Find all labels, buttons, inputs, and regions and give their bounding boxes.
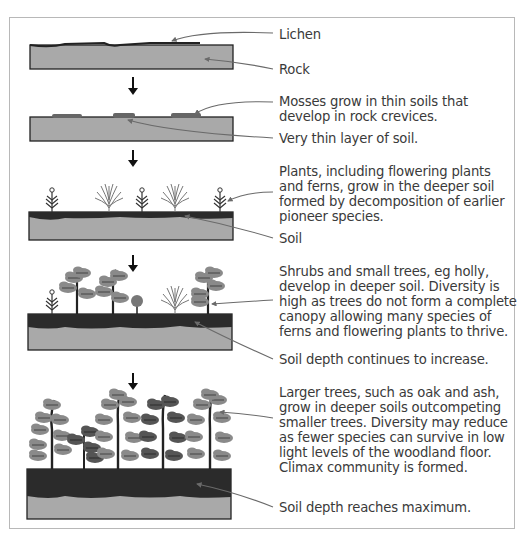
larger-trees-label-line-3: smaller trees. Diversity may reduce [279, 415, 508, 430]
mosses-label-line-1: Mosses grow in thin soils that [279, 94, 468, 109]
stage-4-shrubs [28, 267, 232, 351]
stage-5-woodland [27, 389, 233, 520]
shrubs-label-line-2: develop in deeper soil. Diversity is [279, 279, 499, 294]
soil-depth-max-label: Soil depth reaches maximum. [279, 500, 471, 515]
down-arrow-icon [128, 77, 138, 95]
rock-label: Rock [279, 62, 310, 77]
shrubs-label-line-1: Shrubs and small trees, eg holly, [279, 264, 489, 279]
stage-2-mosses [30, 113, 233, 141]
plants-label-line-1: Plants, including flowering plants [279, 164, 491, 179]
larger-trees-label-line-6: Climax community is formed. [279, 460, 468, 475]
soil-label: Soil [279, 231, 302, 246]
down-arrow-icon [128, 150, 138, 167]
down-arrow-icon [128, 255, 138, 272]
larger-trees-label-line-4: as fewer species can survive in low [279, 430, 505, 445]
mosses-label-line-2: develop in rock crevices. [279, 109, 438, 124]
soil-depth-increase-label: Soil depth continues to increase. [279, 352, 489, 367]
lichen-label: Lichen [279, 27, 321, 42]
shrubs-label-line-5: ferns and flowering plants to thrive. [279, 324, 508, 339]
stage-3-plants [29, 184, 233, 240]
mosses-pointer [195, 102, 273, 114]
lichen-pointer [172, 32, 273, 41]
plants-pointer [228, 192, 273, 201]
shrubs-label-line-4: canopy allowing many species of [279, 309, 491, 324]
larger-trees-label-line-2: grow in deeper soils outcompeting [279, 400, 501, 415]
stage-1-rock [30, 43, 233, 69]
plants-label-line-3: formed by decomposition of earlier [279, 194, 504, 209]
thin-soil-label: Very thin layer of soil. [279, 131, 418, 146]
larger-trees-label-line-1: Larger trees, such as oak and ash, [279, 385, 499, 400]
plants-label-line-2: and ferns, grow in the deeper soil [279, 179, 494, 194]
plants-label-line-4: pioneer species. [279, 209, 384, 224]
shrubs-pointer [212, 300, 273, 304]
larger-trees-label-line-5: light levels of the woodland floor. [279, 445, 491, 460]
down-arrow-icon [128, 373, 138, 390]
shrubs-label-line-3: high as trees do not form a complete [279, 294, 517, 309]
